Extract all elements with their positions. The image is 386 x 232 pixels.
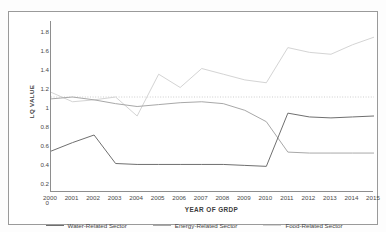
legend-label: Food-Related Sector xyxy=(285,222,342,229)
series-line-water-related-sector xyxy=(51,113,374,166)
x-axis-tick-labels: 2000200120022003200420052006200720082009… xyxy=(50,194,373,206)
legend-label: Energy-Related Sector xyxy=(175,222,238,229)
chart-legend: Water-Related SectorEnergy-Related Secto… xyxy=(29,219,359,231)
legend-item[interactable]: Food-Related Sector xyxy=(263,222,342,229)
series-lines xyxy=(51,37,374,166)
figure-top-caption xyxy=(8,0,378,11)
y-axis-tick: 1.6 xyxy=(27,48,49,54)
x-axis-title: YEAR OF GRDP xyxy=(50,206,373,213)
y-axis-tick: 1.8 xyxy=(27,29,49,35)
y-axis-title: LQ VALUE xyxy=(28,72,35,132)
legend-line-swatch xyxy=(153,225,171,226)
y-axis-tick: 0.2 xyxy=(27,181,49,187)
legend-item[interactable]: Water-Related Sector xyxy=(46,222,127,229)
legend-label: Water-Related Sector xyxy=(68,222,127,229)
line-chart-canvas xyxy=(51,21,374,192)
legend-line-swatch xyxy=(263,225,281,226)
plot-area xyxy=(50,21,373,192)
legend-item[interactable]: Energy-Related Sector xyxy=(153,222,238,229)
x-axis-tick: 2015 xyxy=(360,194,386,202)
y-axis-tick: 0.4 xyxy=(27,162,49,168)
series-line-energy-related-sector xyxy=(51,97,374,153)
legend-line-swatch xyxy=(46,225,64,226)
chart-frame: 1.81.61.41.210.80.60.40.20 LQ VALUE 2000… xyxy=(8,11,378,225)
figure-root: 1.81.61.41.210.80.60.40.20 LQ VALUE 2000… xyxy=(0,0,386,232)
y-axis-tick: 0.6 xyxy=(27,143,49,149)
series-line-food-related-sector xyxy=(51,37,374,116)
